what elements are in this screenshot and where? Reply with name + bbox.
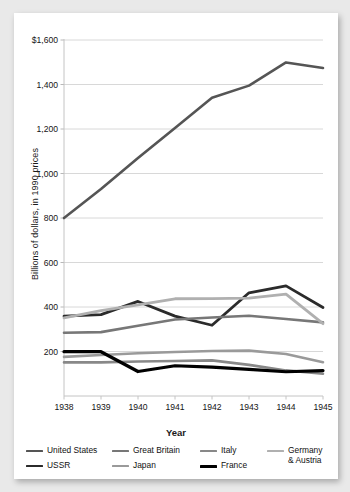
legend-item[interactable]: Italy: [200, 446, 267, 461]
y-tick-label: 1,400: [36, 80, 58, 90]
x-tick-label: 1939: [91, 402, 110, 412]
legend-swatch: [26, 450, 43, 453]
legend-swatch: [26, 465, 43, 468]
x-tick-label: 1941: [165, 402, 184, 412]
legend-label: Germany & Austria: [288, 446, 330, 465]
legend-swatch: [200, 465, 217, 468]
series-line: [64, 316, 323, 333]
legend-item[interactable]: Germany & Austria: [267, 446, 330, 476]
x-tick-label: 1944: [276, 402, 295, 412]
x-tick-label: 1940: [128, 402, 147, 412]
x-tick-label: 1942: [202, 402, 221, 412]
y-tick-label: 800: [44, 213, 59, 223]
legend-item[interactable]: Japan: [112, 461, 200, 476]
x-tick-label: 1943: [239, 402, 258, 412]
legend-label: Great Britain: [133, 446, 180, 456]
x-tick-label: 1938: [54, 402, 73, 412]
legend-label: Italy: [221, 446, 236, 456]
legend-item[interactable]: United States: [26, 446, 112, 461]
line-chart: 2004006008001,0001,2001,400$1,6001938193…: [14, 13, 338, 423]
x-tick-label: 1945: [313, 402, 332, 412]
y-tick-label: $1,600: [32, 35, 59, 45]
legend-label: USSR: [47, 461, 70, 471]
legend-label: United States: [47, 446, 97, 456]
legend-swatch: [112, 465, 129, 468]
y-tick-label: 400: [44, 302, 59, 312]
y-axis-title: Billions of dollars, in 1990 prices: [30, 119, 40, 309]
legend-swatch: [112, 450, 129, 453]
series-line: [64, 62, 323, 218]
legend-swatch: [267, 450, 284, 453]
legend-item[interactable]: France: [200, 461, 267, 476]
chart-page: 2004006008001,0001,2001,400$1,6001938193…: [0, 0, 350, 492]
chart-legend: United StatesUSSRGreat BritainJapanItaly…: [26, 446, 330, 476]
chart-plot-area: 2004006008001,0001,2001,400$1,6001938193…: [14, 13, 338, 423]
legend-label: France: [221, 461, 247, 471]
x-axis-title: Year: [14, 427, 338, 438]
legend-swatch: [200, 450, 217, 453]
legend-item[interactable]: Great Britain: [112, 446, 200, 461]
y-tick-label: 600: [44, 258, 59, 268]
y-tick-label: 200: [44, 347, 59, 357]
legend-item[interactable]: USSR: [26, 461, 112, 476]
legend-label: Japan: [133, 461, 156, 471]
chart-card: 2004006008001,0001,2001,400$1,6001938193…: [14, 13, 338, 479]
